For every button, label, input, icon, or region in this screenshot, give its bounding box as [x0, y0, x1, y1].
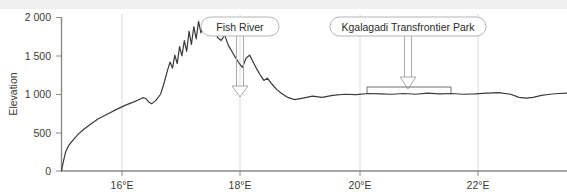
x-tick-label-16E: 16°E: [111, 179, 134, 191]
fish-river-label: Fish River: [216, 21, 264, 33]
elevation-profile-figure: 2 000 1 500 1 000 500 0 16°E 18°E 20°E 2…: [0, 0, 567, 196]
y-tick-label-1500: 1 500: [25, 50, 51, 62]
x-axis: [62, 171, 567, 176]
y-tick-label-500: 500: [33, 127, 51, 139]
y-tick-label-2000: 2 000: [25, 11, 51, 23]
y-axis: [56, 17, 62, 171]
elevation-chart-svg: 2 000 1 500 1 000 500 0 16°E 18°E 20°E 2…: [0, 0, 567, 196]
x-tick-label-20E: 20°E: [349, 179, 372, 191]
y-axis-title: Elevation: [7, 72, 19, 115]
callout-kgalagadi-transfrontier-park[interactable]: Kgalagadi Transfrontier Park: [330, 17, 486, 93]
kgalagadi-label: Kgalagadi Transfrontier Park: [341, 21, 475, 33]
elevation-profile-line: [62, 21, 567, 171]
x-tick-label-18E: 18°E: [229, 179, 252, 191]
x-tick-label-22E: 22°E: [467, 179, 490, 191]
fish-river-arrow-head: [232, 86, 248, 97]
y-tick-label-1000: 1 000: [25, 88, 51, 100]
gridlines: [122, 14, 478, 171]
y-tick-label-0: 0: [45, 165, 51, 177]
